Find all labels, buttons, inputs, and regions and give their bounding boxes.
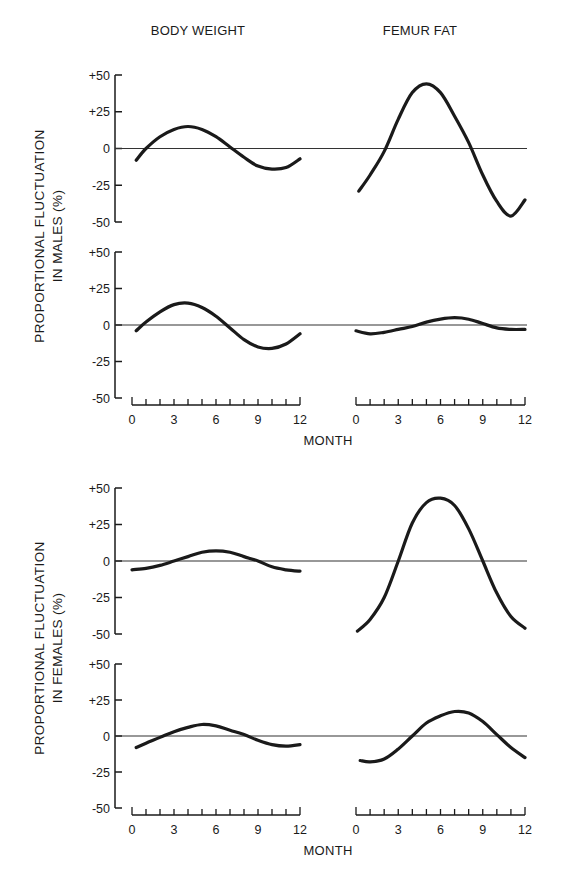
y-tick-label: -50 xyxy=(92,392,110,406)
males-ylabel-line2: IN MALES (%) xyxy=(50,190,65,283)
y-tick-label: -25 xyxy=(92,766,110,780)
month-axis: 036912 xyxy=(129,807,307,837)
x-tick-label: 3 xyxy=(171,823,178,837)
month-axis-title: MONTH xyxy=(303,843,352,858)
x-tick-label: 6 xyxy=(437,413,444,427)
males-y-axis-label: PROPORTIONAL FLUCTUATION IN MALES (%) xyxy=(32,129,65,342)
month-axis-title: MONTH xyxy=(303,433,352,448)
seasonal-fluctuation-figure: BODY WEIGHT FEMUR FAT PROPORTIONAL FLUCT… xyxy=(0,0,566,882)
x-tick-label: 3 xyxy=(171,413,178,427)
x-tick-label: 12 xyxy=(518,413,532,427)
y-tick-label: 0 xyxy=(103,319,110,333)
females-femur-fat-row2-curve xyxy=(360,711,525,762)
females-femur-fat-row1-curve xyxy=(357,498,525,631)
column-title-femur-fat: FEMUR FAT xyxy=(383,23,458,38)
y-tick-label: +50 xyxy=(89,482,110,496)
plot-area: +50+250-25-50+50+250-25-50036912036912MO… xyxy=(89,69,532,859)
x-tick-label: 9 xyxy=(479,823,486,837)
y-tick-label: +50 xyxy=(89,69,110,83)
males-femur-fat-row2-curve xyxy=(356,318,525,334)
y-tick-label: +25 xyxy=(89,105,110,119)
x-tick-label: 9 xyxy=(479,413,486,427)
males-body-weight-row2-curve xyxy=(136,303,300,349)
column-title-body-weight: BODY WEIGHT xyxy=(151,23,245,38)
x-tick-label: 6 xyxy=(213,413,220,427)
x-tick-label: 0 xyxy=(353,413,360,427)
females-ylabel-line2: IN FEMALES (%) xyxy=(50,593,65,704)
y-tick-label: -50 xyxy=(92,802,110,816)
y-tick-label: +25 xyxy=(89,282,110,296)
y-tick-label: +25 xyxy=(89,518,110,532)
males-body-weight-row1-curve xyxy=(136,127,300,170)
month-axis: 036912 xyxy=(353,397,532,427)
y-tick-label: -50 xyxy=(92,628,110,642)
month-axis: 036912 xyxy=(129,397,307,427)
females-y-axis-label: PROPORTIONAL FLUCTUATION IN FEMALES (%) xyxy=(32,541,65,754)
y-tick-label: 0 xyxy=(103,142,110,156)
x-tick-label: 0 xyxy=(353,823,360,837)
y-tick-label: 0 xyxy=(103,730,110,744)
x-tick-label: 12 xyxy=(518,823,532,837)
y-tick-label: -50 xyxy=(92,216,110,230)
x-tick-label: 0 xyxy=(129,823,136,837)
y-tick-label: 0 xyxy=(103,555,110,569)
males-femur-fat-row1-curve xyxy=(359,84,525,216)
y-tick-label: +25 xyxy=(89,694,110,708)
y-tick-label: -25 xyxy=(92,355,110,369)
x-tick-label: 6 xyxy=(437,823,444,837)
y-tick-label: +50 xyxy=(89,246,110,260)
x-tick-label: 6 xyxy=(213,823,220,837)
y-tick-label: +50 xyxy=(89,658,110,672)
x-tick-label: 0 xyxy=(129,413,136,427)
y-tick-label: -25 xyxy=(92,591,110,605)
x-tick-label: 12 xyxy=(293,413,307,427)
y-tick-label: -25 xyxy=(92,179,110,193)
x-tick-label: 12 xyxy=(293,823,307,837)
x-tick-label: 3 xyxy=(395,413,402,427)
x-tick-label: 9 xyxy=(255,413,262,427)
females-ylabel-line1: PROPORTIONAL FLUCTUATION xyxy=(32,541,47,754)
month-axis: 036912 xyxy=(353,807,532,837)
males-ylabel-line1: PROPORTIONAL FLUCTUATION xyxy=(32,129,47,342)
x-tick-label: 9 xyxy=(255,823,262,837)
x-tick-label: 3 xyxy=(395,823,402,837)
